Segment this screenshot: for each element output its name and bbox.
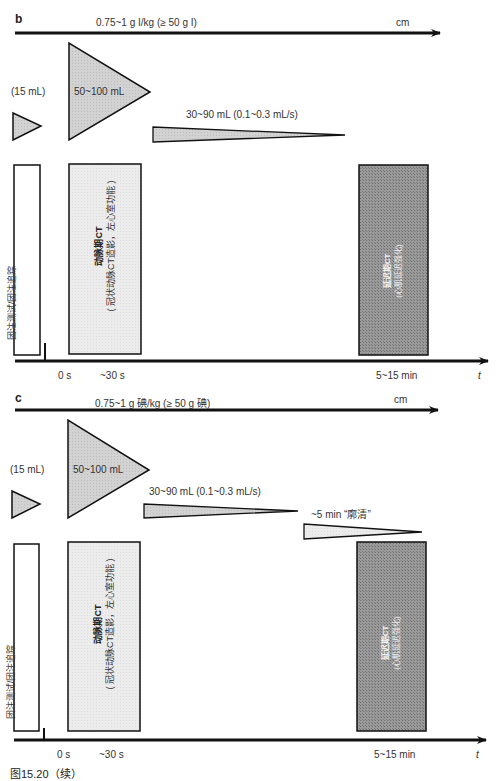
bolus-tracking-label-c: 团注测试/团注追踪 bbox=[5, 602, 17, 762]
arterial-phase-sub-b: ( 冠状动脉CT造影，左心室功能 ) bbox=[106, 181, 116, 312]
main-bolus-volume-c: 50~100 mL bbox=[73, 464, 123, 475]
maintenance-volume-b: 30~90 mL (0.1~0.3 mL/s) bbox=[186, 109, 298, 120]
panel-label-c: c bbox=[15, 391, 22, 405]
washout-wedge-c bbox=[304, 524, 422, 539]
panel-b-shapes bbox=[13, 33, 488, 361]
time-tick-30s-b: ~30 s bbox=[100, 370, 125, 381]
panel-c-shapes bbox=[12, 410, 486, 740]
test-bolus-volume-c: (15 mL) bbox=[10, 464, 44, 475]
test-bolus-triangle-b bbox=[13, 113, 41, 140]
arterial-phase-title-c: 动脉期CT bbox=[93, 605, 103, 644]
dose-unit-b: cm bbox=[396, 17, 409, 28]
maintenance-wedge-b bbox=[153, 127, 345, 142]
figure-caption: 图15.20（续） bbox=[10, 765, 82, 781]
delayed-phase-title-b: 延迟期CT bbox=[383, 254, 392, 289]
time-tick-delay-c: 5~15 min bbox=[374, 749, 415, 760]
bolus-tracking-box-c bbox=[14, 544, 39, 731]
maintenance-volume-c: 30~90 mL (0.1~0.3 mL/s) bbox=[149, 486, 261, 497]
bolus-tracking-label-b: 团注测试/团注追踪 bbox=[6, 223, 18, 383]
time-axis-label-c: t bbox=[476, 749, 479, 760]
delayed-phase-label-b: 延迟期CT (心肌延迟强化) bbox=[382, 221, 404, 321]
main-bolus-volume-b: 50~100 mL bbox=[74, 86, 124, 97]
dose-unit-c: cm bbox=[394, 394, 407, 405]
time-tick-0-c: 0 s bbox=[57, 749, 70, 760]
panel-label-b: b bbox=[15, 12, 22, 26]
delayed-phase-sub-b: (心肌延迟强化) bbox=[394, 244, 403, 297]
dose-label-b: 0.75~1 g I/kg (≥ 50 g I) bbox=[96, 17, 197, 28]
time-axis-label-b: t bbox=[478, 370, 481, 381]
arterial-phase-label-c: 动脉期CT ( 冠状动脉CT造影，左心室功能 ) bbox=[92, 539, 116, 709]
dose-label-c: 0.75~1 g 碘/kg (≥ 50 g 碘) bbox=[95, 395, 210, 410]
delayed-phase-sub-c: (心肌延迟强化) bbox=[392, 616, 401, 669]
arterial-phase-sub-c: ( 冠状动脉CT造影，左心室功能 ) bbox=[105, 559, 115, 690]
maintenance-wedge-c bbox=[144, 504, 298, 518]
time-tick-30s-c: ~30 s bbox=[99, 749, 124, 760]
test-bolus-triangle-c bbox=[12, 491, 40, 518]
delayed-phase-label-c: 延迟期CT (心肌延迟强化) bbox=[380, 593, 402, 693]
time-tick-0-b: 0 s bbox=[58, 370, 71, 381]
delayed-phase-title-c: 延迟期CT bbox=[381, 626, 390, 661]
washout-label-c: ~5 min “廓清” bbox=[311, 506, 371, 521]
time-tick-delay-b: 5~15 min bbox=[376, 370, 417, 381]
arterial-phase-title-b: 动脉期CT bbox=[94, 227, 104, 266]
arterial-phase-label-b: 动脉期CT ( 冠状动脉CT造影，左心室功能 ) bbox=[93, 161, 117, 331]
test-bolus-volume-b: (15 mL) bbox=[11, 86, 45, 97]
